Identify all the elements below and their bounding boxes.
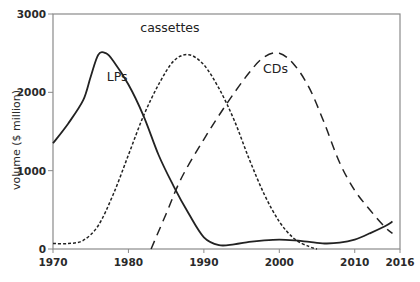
x-tick-label: 1980	[114, 256, 143, 268]
x-tick-label: 2010	[340, 256, 369, 268]
x-tick-label: 2016	[385, 256, 414, 268]
y-tick-label: 3000	[17, 8, 46, 20]
x-tick-label: 1990	[189, 256, 218, 268]
y-tick-label: 0	[39, 243, 46, 255]
series-label-cassettes: cassettes	[140, 20, 199, 35]
y-axis-label: volume ($ million)	[10, 90, 23, 190]
series-labels: LPscassettesCDs	[107, 20, 288, 84]
series-line-cds	[151, 53, 392, 249]
series-line-cassettes	[53, 55, 317, 249]
x-tick-label: 1970	[38, 256, 67, 268]
line-chart: 0100020003000 197019801990200020102016 v…	[0, 0, 420, 282]
series-label-cds: CDs	[263, 61, 288, 76]
series-label-lps: LPs	[107, 69, 128, 84]
series-lines	[53, 52, 393, 249]
x-axis-ticks: 197019801990200020102016	[38, 249, 414, 268]
x-tick-label: 2000	[265, 256, 294, 268]
